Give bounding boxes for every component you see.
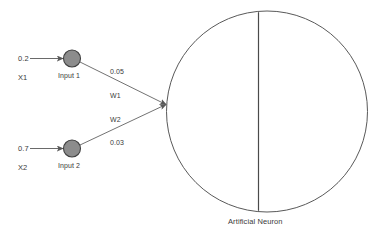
variable-label-x2: X2 [18, 163, 27, 172]
artificial-neuron-circle [167, 11, 368, 212]
signal-value-x1: 0.2 [18, 54, 29, 63]
input-node-2-label: Input 2 [58, 162, 80, 169]
weight-value-w2: 0.03 [110, 139, 124, 146]
weight-label-w2: W2 [110, 116, 121, 123]
input-node-1-label: Input 1 [58, 72, 80, 79]
weight-value-w1: 0.05 [110, 68, 124, 75]
input-node-2 [64, 140, 81, 157]
artificial-neuron-caption: Artificial Neuron [228, 217, 283, 226]
input-node-1 [64, 50, 81, 67]
weight-label-w1: W1 [110, 92, 121, 99]
diagram-canvas: 0.2 X1 Input 1 0.7 X2 Input 2 0.05 W1 W2… [0, 0, 371, 242]
signal-value-x2: 0.7 [18, 144, 29, 153]
diagram-graphics [0, 0, 371, 242]
variable-label-x1: X1 [18, 73, 27, 82]
